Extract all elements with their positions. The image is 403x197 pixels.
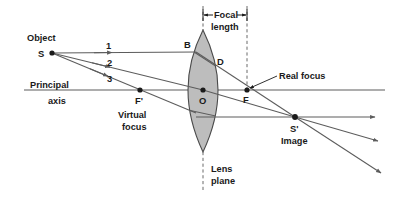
point-f-dot <box>244 87 249 92</box>
point-s-label: S <box>38 48 44 59</box>
image-label: Image <box>281 136 308 146</box>
point-f-prime-label: F' <box>135 95 143 106</box>
focal-label: Focal <box>214 10 238 20</box>
ray-1-label: 1 <box>106 40 111 51</box>
optics-ray-diagram: Object S Principal axis 1 2 3 B D O F F'… <box>0 0 403 197</box>
point-f-label: F <box>243 94 249 105</box>
point-b-label: B <box>184 39 191 50</box>
principal-label: Principal <box>30 80 69 90</box>
point-f-prime-dot <box>137 87 142 92</box>
point-o-label: O <box>199 95 206 106</box>
ray-3-incident-arrow <box>90 69 108 77</box>
virtual-label: Virtual <box>118 110 146 120</box>
lens-label: Lens <box>211 164 232 174</box>
real-focus-label: Real focus <box>279 71 325 81</box>
point-o-dot <box>200 87 205 92</box>
axis-label: axis <box>48 96 66 106</box>
ray-1-incident <box>52 52 196 53</box>
ray-3-label: 3 <box>107 73 112 84</box>
real-focus-leader <box>250 76 277 88</box>
diagram-canvas: Object S Principal axis 1 2 3 B D O F F'… <box>0 0 403 197</box>
real-focus-pointer <box>250 76 277 88</box>
point-s-dot <box>49 50 54 55</box>
object-label: Object <box>27 33 56 43</box>
ray-1-emergent <box>295 117 381 173</box>
lens-plane-label: plane <box>211 176 235 186</box>
virtual-focus-label: focus <box>122 122 147 132</box>
point-d-label: D <box>217 56 224 67</box>
focal-length-label: length <box>211 22 239 32</box>
ray-2-label: 2 <box>107 57 112 68</box>
point-s-prime-dot <box>292 114 298 120</box>
point-s-prime-label: S' <box>290 123 298 134</box>
